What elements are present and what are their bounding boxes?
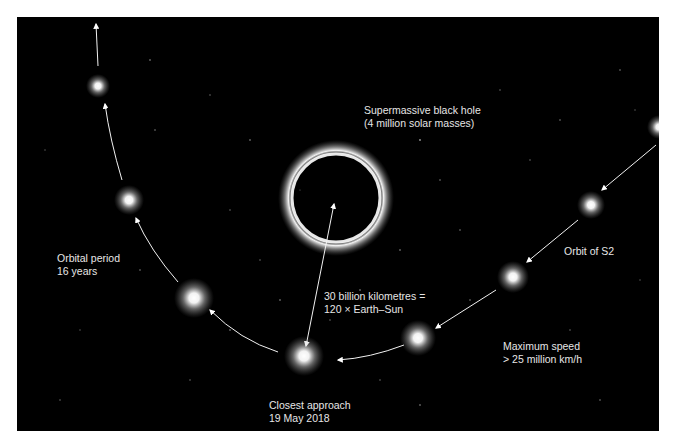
closest-approach-label: Closest approach 19 May 2018: [269, 399, 351, 425]
distance-au: 120 × Earth–Sun: [324, 303, 425, 316]
black-hole-label: Supermassive black hole (4 million solar…: [364, 104, 481, 130]
distance-km: 30 billion kilometres =: [324, 290, 425, 303]
closest-approach-title: Closest approach: [269, 399, 351, 412]
distance-label: 30 billion kilometres = 120 × Earth–Sun: [324, 290, 425, 316]
black-hole-title: Supermassive black hole: [364, 104, 481, 117]
orbit-of-s2: Orbit of S2: [564, 245, 614, 258]
black-hole-mass: (4 million solar masses): [364, 117, 481, 130]
max-speed-value: > 25 million km/h: [503, 353, 582, 366]
orbital-period-label: Orbital period 16 years: [57, 252, 120, 278]
orbital-period-title: Orbital period: [57, 252, 120, 265]
closest-approach-date: 19 May 2018: [269, 412, 351, 425]
orbit-illustration: [17, 17, 659, 431]
max-speed-label: Maximum speed > 25 million km/h: [503, 340, 582, 366]
orbital-period-value: 16 years: [57, 265, 120, 278]
s2-orbit-diagram: Supermassive black hole (4 million solar…: [17, 17, 659, 431]
orbit-label: Orbit of S2: [564, 245, 614, 258]
black-hole-ring: [278, 140, 394, 256]
max-speed-title: Maximum speed: [503, 340, 582, 353]
